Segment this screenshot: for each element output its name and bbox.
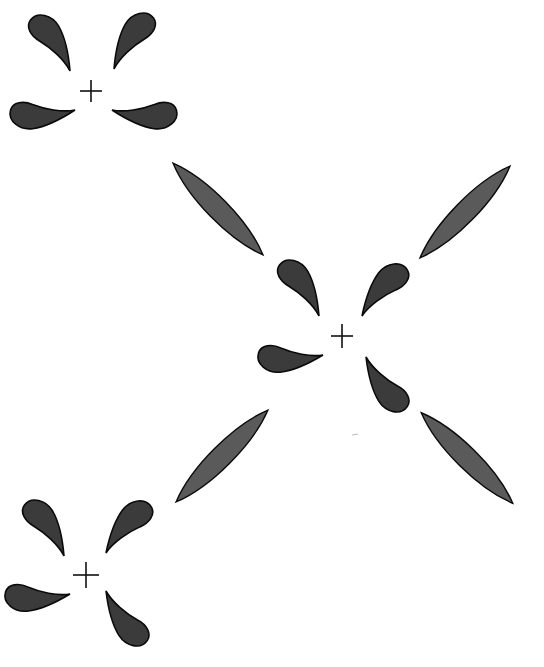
scan-artifact xyxy=(352,434,358,435)
lobe-upper-right xyxy=(106,495,155,562)
lobe-upper-left xyxy=(276,257,319,321)
overlap-lens-upper-left xyxy=(165,156,270,263)
overlap-lens-upper-right xyxy=(412,159,517,266)
lobe-lower-left xyxy=(6,80,75,140)
lobe-lower-right xyxy=(106,585,151,650)
lobe-lower-left xyxy=(1,563,70,622)
orbital-diagram-canvas xyxy=(0,0,544,667)
lobe-upper-left xyxy=(27,12,70,76)
lobe-lower-right xyxy=(366,351,411,416)
overlap-lens-lower-left xyxy=(169,403,276,510)
atom-top-left xyxy=(6,10,181,140)
orbital-diagram xyxy=(0,0,544,667)
lobe-upper-right xyxy=(362,258,411,325)
atom-middle xyxy=(254,257,411,416)
lobe-upper-right xyxy=(114,10,157,74)
overlap-lens-lower-right xyxy=(414,405,520,510)
lobe-lower-right xyxy=(112,80,181,140)
atom-bottom-left xyxy=(1,495,155,649)
lobe-upper-left xyxy=(21,497,64,561)
lobe-lower-left xyxy=(254,324,323,383)
